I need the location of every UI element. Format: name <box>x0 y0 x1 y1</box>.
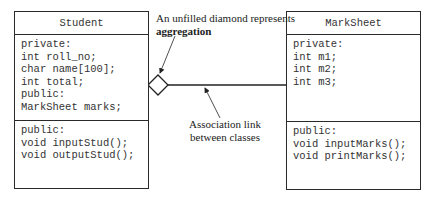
method: void outputStud(); <box>21 149 142 162</box>
attribute: int m1; <box>293 51 414 64</box>
attribute: MarkSheet marks; <box>21 101 142 114</box>
attribute: private: <box>21 38 142 51</box>
aggregation-annotation: An unfilled diamond represents aggregati… <box>156 12 295 38</box>
aggregation-note-line1: An unfilled diamond represents <box>156 12 295 25</box>
association-arrow <box>205 88 220 118</box>
method: void inputMarks(); <box>293 138 414 151</box>
association-note-line2: between classes <box>180 131 270 144</box>
method: public: <box>293 125 414 138</box>
method: void inputStud(); <box>21 137 142 150</box>
student-class-name: Student <box>15 12 148 35</box>
marksheet-class-name: MarkSheet <box>287 12 420 35</box>
aggregation-note-line2: aggregation <box>156 25 211 37</box>
attribute: char name[100]; <box>21 63 142 76</box>
student-methods: public: void inputStud(); void outputStu… <box>15 121 148 165</box>
association-annotation: Association link between classes <box>180 118 270 144</box>
method: public: <box>21 124 142 137</box>
attribute: int roll_no; <box>21 51 142 64</box>
student-attributes: private: int roll_no; char name[100]; in… <box>15 35 148 121</box>
aggregation-arrow <box>160 36 175 73</box>
student-class-box: Student private: int roll_no; char name[… <box>14 11 149 189</box>
marksheet-class-box: MarkSheet private: int m1; int m2; int m… <box>286 11 421 190</box>
attribute: int total; <box>21 76 142 89</box>
marksheet-attributes: private: int m1; int m2; int m3; <box>287 35 420 122</box>
attribute: private: <box>293 38 414 51</box>
marksheet-methods: public: void inputMarks(); void printMar… <box>287 122 420 166</box>
attribute: int m2; <box>293 63 414 76</box>
association-note-line1: Association link <box>180 118 270 131</box>
attribute: int m3; <box>293 76 414 89</box>
method: void printMarks(); <box>293 150 414 163</box>
aggregation-diamond-icon <box>148 75 168 95</box>
attribute: public: <box>21 88 142 101</box>
